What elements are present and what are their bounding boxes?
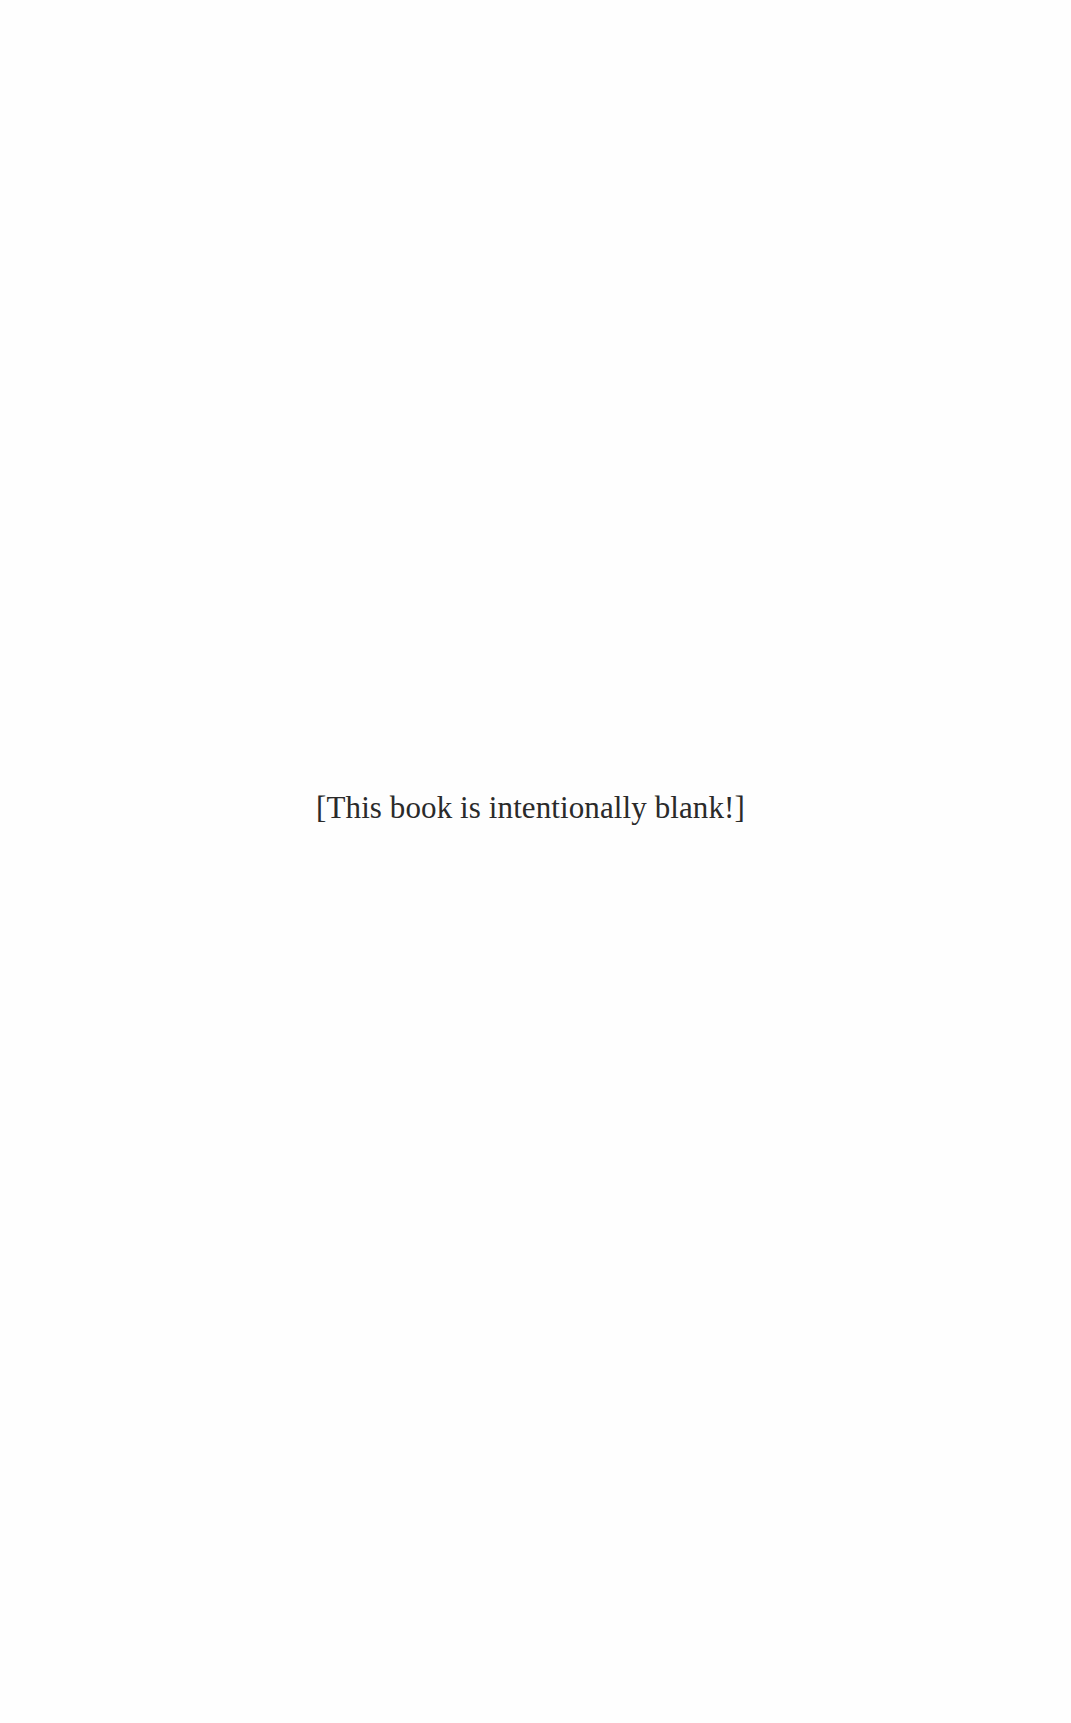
book-page: [This book is intentionally blank!] bbox=[0, 0, 1071, 1723]
intentionally-blank-notice: [This book is intentionally blank!] bbox=[0, 788, 1071, 828]
